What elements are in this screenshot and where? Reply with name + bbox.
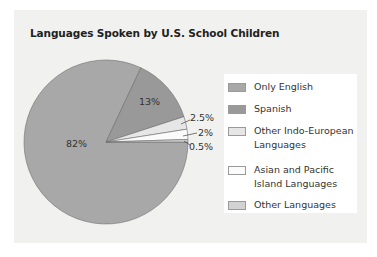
- legend-item-other-indo-european: Other Indo-European Languages: [228, 124, 354, 152]
- legend-swatch: [228, 83, 246, 92]
- legend-label: Other Languages: [254, 198, 354, 212]
- legend-item-asian-pacific: Asian and Pacific Island Languages: [228, 163, 354, 191]
- legend-label: Spanish: [254, 102, 354, 116]
- legend-item-only-english: Only English: [228, 80, 354, 94]
- slice-label-other: 0.5%: [189, 141, 213, 152]
- legend-label: Only English: [254, 80, 354, 94]
- legend-swatch: [228, 127, 246, 136]
- legend-swatch: [228, 201, 246, 210]
- legend-swatch: [228, 166, 246, 175]
- slice-label-indo-european: 2.5%: [190, 112, 214, 123]
- chart-legend: Only English Spanish Other Indo-European…: [224, 74, 357, 213]
- legend-label: Asian and Pacific Island Languages: [254, 163, 354, 191]
- legend-item-other-languages: Other Languages: [228, 198, 354, 212]
- legend-swatch: [228, 105, 246, 114]
- slice-label-asian: 2%: [198, 127, 213, 138]
- legend-label: Other Indo-European Languages: [254, 124, 354, 152]
- slice-label-spanish: 13%: [139, 96, 160, 107]
- slice-label-english: 82%: [66, 138, 87, 149]
- legend-item-spanish: Spanish: [228, 102, 354, 116]
